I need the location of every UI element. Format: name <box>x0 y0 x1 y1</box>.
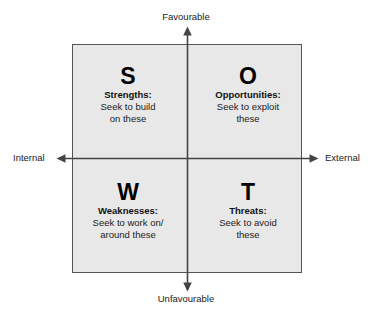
axis-arrow-left-icon <box>57 154 66 163</box>
quadrant-body-strengths-line1: Seek to build <box>69 101 187 113</box>
quadrant-body-opportunities-line1: Seek to exploit <box>189 101 307 113</box>
axis-arrow-up-icon <box>183 27 192 36</box>
axis-label-internal: Internal <box>13 152 45 163</box>
axis-arrow-down-icon <box>183 283 192 292</box>
quadrant-letter-s: S <box>69 64 187 88</box>
axis-label-unfavourable: Unfavourable <box>0 293 375 304</box>
quadrant-body-strengths-line2: on these <box>69 113 187 125</box>
axis-label-favourable: Favourable <box>0 11 375 22</box>
quadrant-heading-strengths: Strengths: <box>69 89 187 101</box>
quadrant-heading-opportunities: Opportunities: <box>189 89 307 101</box>
quadrant-letter-o: O <box>189 64 307 88</box>
quadrant-body-weaknesses-line1: Seek to work on/ <box>69 217 187 229</box>
axis-arrow-right-icon <box>310 154 319 163</box>
swot-matrix-diagram: Favourable Unfavourable Internal Externa… <box>0 0 375 317</box>
quadrant-letter-w: W <box>69 180 187 204</box>
quadrant-heading-threats: Threats: <box>189 205 307 217</box>
quadrant-opportunities: O Opportunities: Seek to exploit these <box>189 64 307 125</box>
quadrant-weaknesses: W Weaknesses: Seek to work on/ around th… <box>69 180 187 241</box>
axis-label-external: External <box>325 152 360 163</box>
quadrant-heading-weaknesses: Weaknesses: <box>69 205 187 217</box>
quadrant-body-opportunities-line2: these <box>189 113 307 125</box>
quadrant-threats: T Threats: Seek to avoid these <box>189 180 307 241</box>
quadrant-body-threats-line2: these <box>189 229 307 241</box>
quadrant-body-threats-line1: Seek to avoid <box>189 217 307 229</box>
quadrant-letter-t: T <box>189 180 307 204</box>
quadrant-body-weaknesses-line2: around these <box>69 229 187 241</box>
quadrant-strengths: S Strengths: Seek to build on these <box>69 64 187 125</box>
